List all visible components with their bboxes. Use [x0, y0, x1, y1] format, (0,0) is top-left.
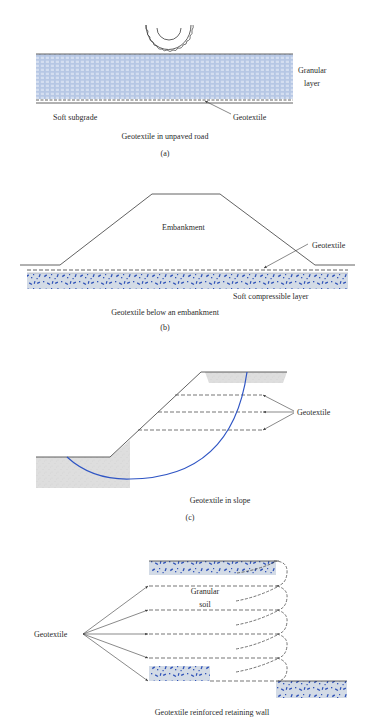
wrapped-facing: [236, 561, 287, 681]
geotextile-label-c: Geotextile: [297, 408, 331, 417]
geotextile-applications-figure: Granular layer Soft subgrade Geotextile …: [0, 0, 365, 725]
geotextile-label-d: Geotextile: [34, 630, 68, 639]
letter-a: (a): [161, 149, 170, 158]
geotextile-pointer-arrow-1: [83, 586, 148, 634]
geotextile-label-b: Geotextile: [312, 241, 346, 250]
letter-b: (b): [160, 323, 170, 332]
geotextile-label-a: Geotextile: [233, 113, 267, 122]
panel-b-embankment: Embankment Geotextile Soft compressible …: [20, 194, 355, 332]
wheel-icon: [146, 25, 194, 52]
granular-soil-label: Granular: [191, 587, 220, 596]
geotextile-pointer-arrow: [264, 244, 308, 268]
caption-c: Geotextile in slope: [190, 496, 251, 505]
caption-d: Geotextile reinforced retaining wall: [155, 708, 270, 717]
geotextile-pointer-arrow-3: [263, 413, 294, 430]
caption-b: Geotextile below an embankment: [111, 308, 220, 317]
panel-d-retaining-wall: Geotextile Granular soil Geotextile rein…: [34, 561, 347, 717]
panel-a-unpaved-road: Granular layer Soft subgrade Geotextile …: [36, 25, 327, 158]
soft-compressible-label: Soft compressible layer: [233, 292, 309, 301]
soft-subgrade-label: Soft subgrade: [53, 113, 98, 122]
panel-c-slope: Geotextile Geotextile in slope (c): [36, 372, 331, 522]
granular-layer-label: Granular: [298, 66, 327, 75]
top-granular-fill: [149, 561, 276, 575]
granular-soil-label-2: soil: [199, 600, 211, 609]
granular-layer-label-2: layer: [304, 79, 320, 88]
toe-granular-fill: [276, 681, 347, 698]
caption-a: Geotextile in unpaved road: [122, 132, 209, 141]
bottom-left-granular-fill: [149, 666, 210, 681]
toe-ground-soil: [36, 440, 130, 488]
geotextile-pointer-arrow-4: [83, 634, 148, 658]
letter-c: (c): [186, 513, 195, 522]
geotextile-pointer-arrow-1: [263, 395, 294, 411]
slope-surface: [36, 372, 287, 457]
geotextile-pointer-arrow-2: [83, 610, 148, 634]
soft-compressible-layer: [27, 273, 348, 289]
embankment-label: Embankment: [162, 223, 205, 232]
geotextile-pointer-arrow-5: [83, 634, 148, 681]
